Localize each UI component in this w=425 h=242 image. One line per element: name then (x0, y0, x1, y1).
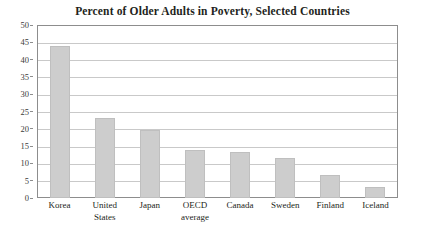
gridline (38, 112, 397, 113)
y-tick-label: 45 (21, 37, 30, 47)
y-tick-label: 40 (21, 55, 30, 65)
y-tick-label: 25 (21, 107, 30, 117)
y-tick-mark (30, 94, 33, 95)
y-tick-label: 10 (21, 158, 30, 168)
gridline (38, 129, 397, 130)
y-tick-label: 50 (21, 20, 30, 30)
bar-chart-figure: Percent of Older Adults in Poverty, Sele… (0, 0, 425, 242)
gridline (38, 60, 397, 61)
y-tick-mark (30, 42, 33, 43)
y-tick-label: 5 (25, 176, 29, 186)
gridline (38, 164, 397, 165)
y-tick-mark (30, 180, 33, 181)
plot-area (37, 25, 398, 198)
y-tick-mark (30, 111, 33, 112)
chart-title: Percent of Older Adults in Poverty, Sele… (0, 5, 425, 17)
y-tick-mark (30, 59, 33, 60)
y-tick-label: 35 (21, 72, 30, 82)
gridline (38, 95, 397, 96)
x-axis: KoreaUnited StatesJapanOECD averageCanad… (37, 200, 398, 240)
y-tick-mark (30, 128, 33, 129)
y-axis: 05101520253035404550 (0, 25, 33, 198)
gridline (38, 77, 397, 78)
x-tick-label: Iceland (345, 200, 406, 212)
y-tick-label: 30 (21, 89, 30, 99)
y-tick-mark (30, 146, 33, 147)
y-tick-mark (30, 25, 33, 26)
gridline (38, 181, 397, 182)
y-tick-label: 15 (21, 141, 30, 151)
y-tick-label: 20 (21, 124, 30, 134)
y-tick-mark (30, 198, 33, 199)
gridline (38, 43, 397, 44)
y-tick-mark (30, 163, 33, 164)
y-tick-mark (30, 76, 33, 77)
gridline (38, 147, 397, 148)
